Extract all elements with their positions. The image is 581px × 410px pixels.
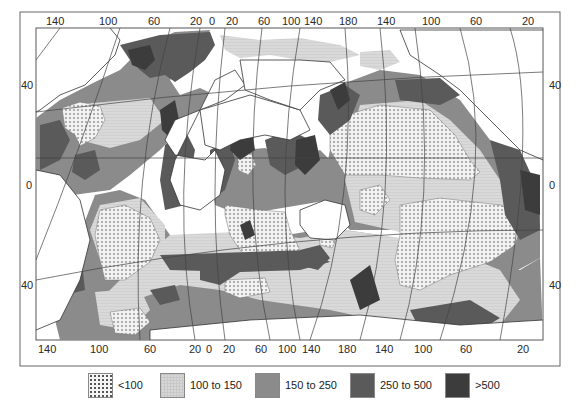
- top-lon-label: 100: [99, 16, 117, 27]
- left-lat-label: 40: [21, 80, 33, 91]
- top-lon-label: 140: [46, 16, 64, 27]
- legend-label: 250 to 500: [380, 379, 432, 391]
- legend-item-gt500: >500: [445, 372, 500, 398]
- bottom-lon-label: 100: [90, 344, 108, 355]
- bottom-lon-label: 100: [414, 344, 432, 355]
- right-lat-label: 0: [549, 180, 555, 191]
- map-body: [36, 28, 543, 340]
- right-lat-label: 40: [549, 280, 561, 291]
- light-grid-swatch-icon: [160, 373, 185, 398]
- top-lon-label: 60: [258, 16, 270, 27]
- top-lon-label: 20: [226, 16, 238, 27]
- legend-label: <100: [118, 379, 143, 391]
- legend-item-150-250: 150 to 250: [255, 372, 337, 398]
- legend-label: 100 to 150: [190, 379, 242, 391]
- bottom-lon-label: 20: [517, 344, 529, 355]
- bottom-lon-label: 140: [38, 344, 56, 355]
- bottom-lon-label: 140: [375, 344, 393, 355]
- top-lon-label: 180: [339, 16, 357, 27]
- darkest-swatch-icon: [445, 373, 470, 398]
- legend-item-100-150: 100 to 150: [160, 372, 242, 398]
- top-lon-label: 140: [304, 16, 322, 27]
- bottom-lon-label: 180: [338, 344, 356, 355]
- left-lat-label: 0: [26, 180, 32, 191]
- top-lon-label: 20: [522, 16, 534, 27]
- legend-item-lt100: <100: [88, 372, 143, 398]
- right-lat-label: 40: [549, 80, 561, 91]
- left-lat-label: 40: [21, 280, 33, 291]
- bottom-lon-label: 20: [223, 344, 235, 355]
- medium-gray-swatch-icon: [255, 373, 280, 398]
- top-lon-label: 60: [470, 16, 482, 27]
- legend-label: >500: [475, 379, 500, 391]
- top-lon-label: 20: [190, 16, 202, 27]
- top-lon-label: 0: [209, 16, 215, 27]
- top-lon-label: 100: [282, 16, 300, 27]
- bottom-lon-label: 140: [302, 344, 320, 355]
- dark-gray-swatch-icon: [350, 373, 375, 398]
- top-lon-label: 100: [422, 16, 440, 27]
- dotted-swatch-icon: [88, 373, 113, 398]
- legend: <100 100 to 150 150 to 250 250 to 500 >5…: [0, 368, 581, 402]
- legend-item-250-500: 250 to 500: [350, 372, 432, 398]
- legend-label: 150 to 250: [285, 379, 337, 391]
- top-lon-label: 140: [377, 16, 395, 27]
- bottom-lon-label: 60: [460, 344, 472, 355]
- bottom-lon-label: 20: [189, 344, 201, 355]
- bottom-lon-label: 0: [206, 344, 212, 355]
- bottom-lon-label: 60: [144, 344, 156, 355]
- top-lon-label: 60: [148, 16, 160, 27]
- bottom-lon-label: 100: [278, 344, 296, 355]
- bottom-lon-label: 60: [255, 344, 267, 355]
